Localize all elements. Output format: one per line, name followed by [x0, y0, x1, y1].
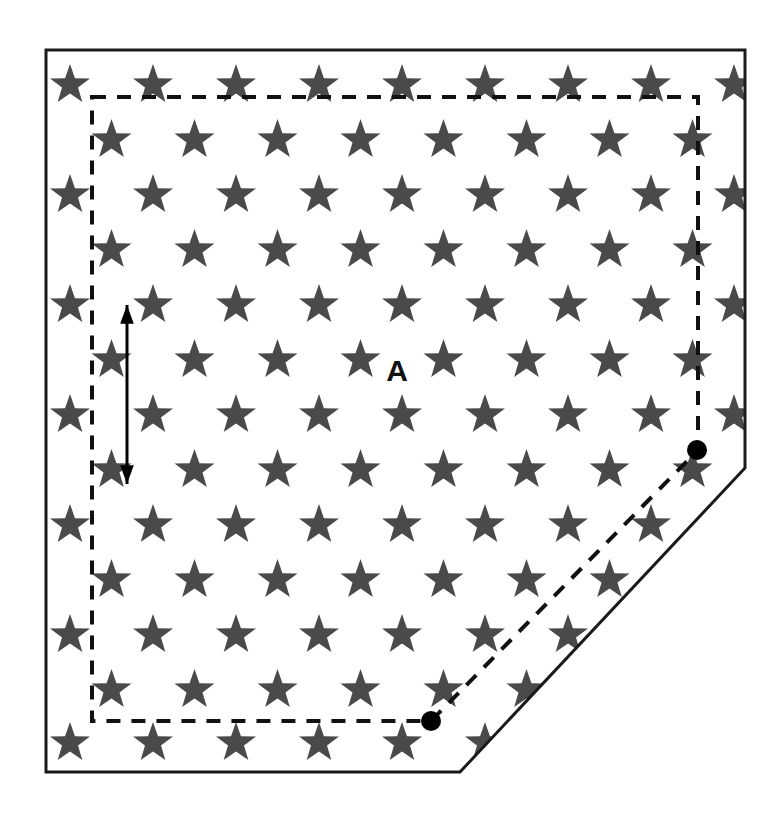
star-field-diagram: A	[0, 0, 780, 822]
vertex-dot-lower-left	[421, 711, 441, 731]
area-label-a: A	[386, 354, 408, 387]
vertex-dot-upper-right	[687, 440, 707, 460]
diagram-canvas: A	[0, 0, 780, 822]
